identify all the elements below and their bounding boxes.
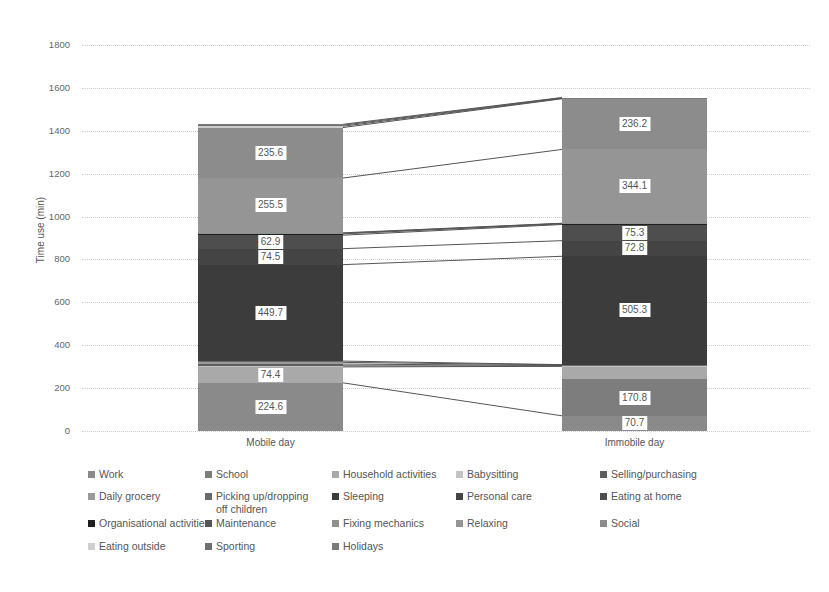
data-label: 74.5 (258, 250, 283, 264)
legend-swatch-icon (600, 520, 607, 527)
bar-segment (198, 125, 343, 126)
legend-swatch-icon (88, 543, 95, 550)
legend-swatch-icon (332, 520, 339, 527)
legend-label: Maintenance (216, 517, 276, 530)
legend-label: Household activities (343, 468, 436, 481)
legend-swatch-icon (88, 471, 95, 478)
bar-segment (198, 233, 343, 234)
connector-line (343, 99, 562, 128)
bar-segment: 74.5 (198, 249, 343, 265)
legend-label: Holidays (343, 540, 383, 553)
bar-segment: 75.3 (562, 225, 707, 241)
legend-swatch-icon (332, 471, 339, 478)
bar-segment (198, 362, 343, 364)
legend-swatch-icon (456, 493, 463, 500)
legend-label: Work (99, 468, 123, 481)
legend-label: Sleeping (343, 490, 384, 503)
bar-segment (562, 224, 707, 225)
bar-segment (198, 364, 343, 366)
legend-swatch-icon (600, 493, 607, 500)
legend-swatch-icon (88, 493, 95, 500)
legend-item: Fixing mechanics (332, 517, 424, 530)
connector-line (343, 97, 562, 124)
bar-segment (198, 361, 343, 362)
bar-segment (198, 126, 343, 127)
legend-swatch-icon (205, 493, 212, 500)
bar-segment: 62.9 (198, 235, 343, 248)
legend-item: Personal care (456, 490, 532, 503)
legend-label: Eating outside (99, 540, 166, 553)
legend-swatch-icon (205, 471, 212, 478)
legend-item: Picking up/dropping off children (205, 490, 320, 516)
data-label: 449.7 (255, 306, 286, 320)
bar-segment: 235.6 (198, 128, 343, 179)
connector-line (343, 256, 562, 264)
legend-swatch-icon (456, 520, 463, 527)
legend-swatch-icon (205, 520, 212, 527)
legend-item: Social (600, 517, 640, 530)
legend-swatch-icon (332, 493, 339, 500)
data-label: 74.4 (258, 368, 283, 382)
bar-segment: 255.5 (198, 178, 343, 233)
legend-item: Sporting (205, 540, 255, 553)
legend-swatch-icon (332, 543, 339, 550)
legend-item: Eating at home (600, 490, 682, 503)
connector-line (343, 383, 562, 416)
legend-item: Sleeping (332, 490, 384, 503)
legend-item: Babysitting (456, 468, 518, 481)
legend-swatch-icon (205, 543, 212, 550)
legend-label: School (216, 468, 248, 481)
bar-segment (198, 234, 343, 235)
legend-swatch-icon (600, 471, 607, 478)
stacked-bar-chart: Time use (min) 0200400600800100012001400… (0, 0, 829, 460)
legend-item: Maintenance (205, 517, 276, 530)
connector-line (343, 366, 562, 367)
bar-segment: 236.2 (562, 99, 707, 150)
bar-mobile-day: 224.674.4449.774.562.9255.5235.6 (198, 124, 343, 431)
data-label: 505.3 (619, 303, 650, 317)
data-label: 236.2 (619, 117, 650, 131)
legend-label: Babysitting (467, 468, 518, 481)
legend-label: Selling/purchasing (611, 468, 697, 481)
data-label: 235.6 (255, 146, 286, 160)
bar-segment (562, 366, 707, 379)
bar-segment: 449.7 (198, 265, 343, 361)
bar-segment (198, 366, 343, 367)
bar-segment: 170.8 (562, 379, 707, 416)
legend-item: Relaxing (456, 517, 508, 530)
data-label: 70.7 (622, 416, 647, 430)
connector-line (343, 225, 562, 236)
x-label-mobile-day: Mobile day (246, 437, 294, 448)
legend-label: Personal care (467, 490, 532, 503)
data-label: 72.8 (622, 241, 647, 255)
data-label: 255.5 (255, 198, 286, 212)
bar-segment: 224.6 (198, 383, 343, 431)
legend-item: Eating outside (88, 540, 166, 553)
x-label-immobile-day: Immobile day (605, 437, 664, 448)
legend-label: Fixing mechanics (343, 517, 424, 530)
bar-segment: 505.3 (562, 256, 707, 364)
bar-segment: 344.1 (562, 149, 707, 223)
legend-swatch-icon (456, 471, 463, 478)
legend-label: Daily grocery (99, 490, 160, 503)
data-label: 224.6 (255, 400, 286, 414)
connector-line (343, 223, 562, 233)
legend-label: Organisational activities (99, 517, 210, 530)
bar-segment: 72.8 (562, 241, 707, 257)
legend-label: Picking up/dropping off children (216, 490, 320, 516)
bar-segment: 70.7 (562, 416, 707, 431)
data-label: 75.3 (622, 226, 647, 240)
legend-item: School (205, 468, 248, 481)
legend-label: Relaxing (467, 517, 508, 530)
bar-segment (198, 124, 343, 125)
bar-segment: 74.4 (198, 367, 343, 383)
connector-line (343, 241, 562, 249)
connector-line (343, 98, 562, 126)
connector-line (343, 149, 562, 178)
legend-item: Work (88, 468, 123, 481)
legend-label: Eating at home (611, 490, 682, 503)
legend-item: Household activities (332, 468, 436, 481)
bar-segment (562, 365, 707, 366)
bar-immobile-day: 70.7170.8505.372.875.3344.1236.2 (562, 97, 707, 431)
data-label: 344.1 (619, 179, 650, 193)
